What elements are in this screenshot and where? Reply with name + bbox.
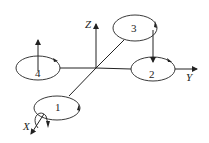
rotor-2-rotation-arrow-icon: [167, 58, 172, 62]
rotor-4-rotation-arrow-icon: [53, 58, 58, 62]
x-axis-rotation-arrow-icon: [46, 121, 50, 128]
rotor-4-label: 4: [35, 68, 41, 79]
rotor-1-label: 1: [55, 102, 61, 113]
z-axis-label: Z: [85, 19, 91, 30]
arm-to-rotor-2: [96, 68, 131, 69]
quadrotor-diagram: [0, 0, 209, 143]
arm-to-rotor-1: [69, 68, 96, 96]
x-axis-label: X: [23, 121, 30, 132]
x-axis-rotation-loop: [35, 113, 48, 128]
y-axis-label: Y: [186, 72, 192, 83]
rotor-3-label: 3: [131, 23, 137, 34]
arm-to-rotor-3: [96, 40, 124, 68]
rotor-2-label: 2: [149, 69, 155, 80]
